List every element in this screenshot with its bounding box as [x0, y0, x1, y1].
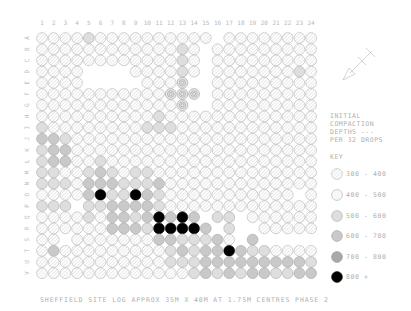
grid-cell: [60, 133, 71, 144]
grid-cell: [60, 156, 71, 167]
grid-cell: [259, 55, 270, 66]
grid-cell: [154, 201, 165, 212]
grid-cell: [224, 189, 235, 200]
grid-cell: [224, 245, 235, 256]
grid-cell: [107, 55, 118, 66]
grid-cell: [200, 122, 211, 133]
grid-cell: [95, 189, 106, 200]
grid-cell: [247, 145, 258, 156]
grid-cell: [212, 257, 223, 268]
grid-cell: [189, 133, 200, 144]
grid-cell: [48, 66, 59, 77]
grid-cell: [294, 156, 305, 167]
grid-cell: [107, 201, 118, 212]
grid-cell: [60, 245, 71, 256]
grid-cell: [177, 44, 188, 55]
grid-cell: [189, 245, 200, 256]
grid-cell: [154, 100, 165, 111]
grid-cell: [72, 245, 83, 256]
grid-cell: [177, 178, 188, 189]
grid-cell: [306, 89, 317, 100]
grid-cell: [236, 44, 247, 55]
grid-cell: [130, 167, 141, 178]
grid-cell: [189, 156, 200, 167]
grid-cell: [107, 145, 118, 156]
grid-cell: [154, 245, 165, 256]
grid-cell: [200, 145, 211, 156]
grid-cell: [189, 268, 200, 279]
grid-cell: [165, 201, 176, 212]
grid-cell: [224, 66, 235, 77]
grid-cell: [212, 66, 223, 77]
column-label: 24: [307, 19, 315, 26]
grid-cell: [236, 122, 247, 133]
grid-cell: [83, 33, 94, 44]
grid-cell: [177, 234, 188, 245]
grid-cell: [48, 167, 59, 178]
grid-cell: [200, 189, 211, 200]
row-label: S: [23, 237, 30, 241]
grid-cell: [259, 145, 270, 156]
grid-cell: [189, 223, 200, 234]
grid-cell: [282, 245, 293, 256]
grid-cell: [48, 33, 59, 44]
grid-cell: [60, 189, 71, 200]
grid-cell: [212, 178, 223, 189]
grid-cell: [224, 257, 235, 268]
grid-cell: [60, 257, 71, 268]
grid-cell: [60, 66, 71, 77]
compaction-grid: 123456789101112131415161718192021222324 …: [0, 0, 411, 311]
grid-cell: [107, 89, 118, 100]
grid-cell: [259, 122, 270, 133]
grid-cell: [332, 211, 343, 222]
grid-cell: [271, 245, 282, 256]
grid-cell: [177, 55, 188, 66]
grid-cell: [165, 212, 176, 223]
grid-cell: [236, 178, 247, 189]
grid-cell: [224, 111, 235, 122]
row-label: B: [23, 47, 30, 51]
grid-cell: [37, 245, 48, 256]
grid-cell: [247, 89, 258, 100]
grid-cell: [142, 111, 153, 122]
grid-cell: [236, 201, 247, 212]
grid-cell: [72, 89, 83, 100]
grid-cell: [212, 44, 223, 55]
grid-cell: [224, 156, 235, 167]
grid-cell: [271, 89, 282, 100]
grid-cell: [37, 178, 48, 189]
grid-cell: [48, 111, 59, 122]
grid-cell: [60, 33, 71, 44]
grid-cell: [60, 55, 71, 66]
grid-cell: [95, 111, 106, 122]
grid-cell: [165, 257, 176, 268]
grid-cell: [72, 111, 83, 122]
grid-cell: [306, 189, 317, 200]
grid-cell: [306, 66, 317, 77]
grid-cell: [119, 178, 130, 189]
grid-cell: [224, 145, 235, 156]
grid-cell: [259, 156, 270, 167]
legend-item-700-800: 700 - 800: [346, 252, 387, 262]
column-label: 8: [122, 19, 126, 26]
grid-cell: [306, 167, 317, 178]
grid-cell: [224, 55, 235, 66]
grid-cell: [282, 223, 293, 234]
grid-cell: [306, 257, 317, 268]
grid-cell: [83, 145, 94, 156]
grid-cell: [130, 156, 141, 167]
grid-cell: [259, 268, 270, 279]
grid-cell: [271, 268, 282, 279]
grid-cell: [259, 189, 270, 200]
legend-key-label: KEY: [330, 153, 343, 161]
grid-cell: [165, 66, 176, 77]
grid-cell: [282, 257, 293, 268]
row-label: M: [23, 170, 30, 174]
grid-cell: [119, 257, 130, 268]
grid-cell: [165, 223, 176, 234]
grid-cell: [259, 111, 270, 122]
grid-cell: [95, 33, 106, 44]
grid-cell: [212, 201, 223, 212]
grid-cell: [130, 223, 141, 234]
grid-cell: [119, 189, 130, 200]
